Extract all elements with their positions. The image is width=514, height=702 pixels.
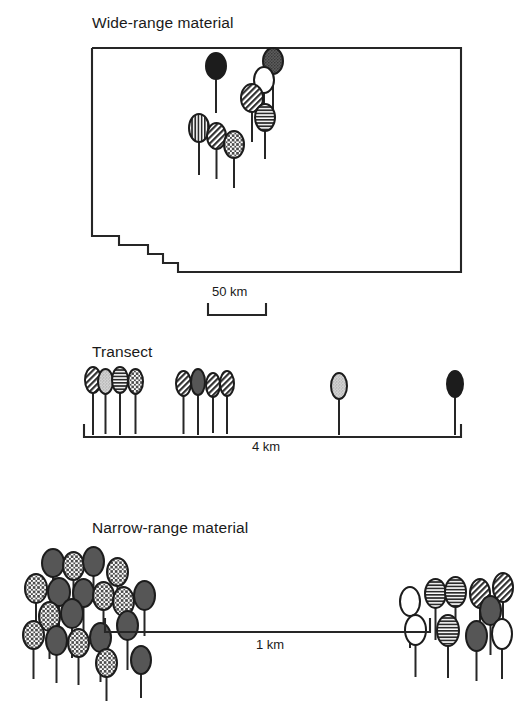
symbol-head-crosshatch (23, 621, 44, 649)
symbol-head-gray_solid (117, 611, 138, 640)
sample-symbol-horizontal_lines (436, 614, 460, 679)
symbol-head-gray_solid (61, 599, 83, 628)
symbol-head-diagonal_lines (220, 371, 234, 396)
sample-symbol-crosshatch (67, 628, 90, 686)
symbol-head-diagonal_lines (206, 373, 220, 397)
sample-symbol-solid_black (446, 370, 464, 436)
symbol-head-horizontal_lines (445, 577, 466, 607)
sample-symbol-crosshatch (95, 648, 118, 702)
symbol-head-gray_solid (131, 646, 151, 674)
symbol-head-white_open (405, 615, 426, 645)
sample-symbol-white_open (491, 618, 513, 680)
sample-symbol-white_open (404, 614, 427, 678)
sample-symbol-light_stipple (330, 372, 348, 436)
panel-title-narrow-range: Narrow-range material (92, 519, 248, 537)
symbol-head-crosshatch (25, 574, 47, 603)
sample-symbol-crosshatch (127, 368, 144, 435)
sample-symbol-diagonal_lines (219, 370, 235, 435)
symbol-head-white_open (400, 587, 420, 616)
sample-symbol-gray_solid (190, 368, 206, 436)
symbol-head-gray_solid (466, 621, 487, 651)
symbol-head-crosshatch (63, 552, 84, 580)
symbol-head-gray_solid (46, 626, 67, 655)
symbol-head-solid_black (447, 371, 463, 397)
sample-symbol-crosshatch (22, 620, 45, 680)
sample-symbol-gray_solid (45, 625, 68, 684)
sample-symbol-gray_solid (130, 645, 152, 699)
symbol-head-white_open (492, 619, 512, 649)
symbol-head-gray_solid (83, 547, 104, 576)
sample-symbol-gray_solid (465, 620, 488, 682)
scalebar-label-1km: 1 km (256, 637, 284, 652)
symbol-head-horizontal_lines (425, 579, 446, 608)
symbol-head-crosshatch (68, 629, 89, 657)
symbol-head-gray_solid (134, 581, 155, 610)
scalebar-label-4km: 4 km (252, 439, 280, 454)
symbol-head-diagonal_lines (176, 371, 191, 396)
symbol-head-gray_solid (191, 369, 205, 395)
symbol-head-horizontal_lines (437, 615, 459, 646)
symbol-head-crosshatch (93, 582, 114, 610)
symbol-head-light_stipple (331, 373, 347, 399)
symbol-head-crosshatch (96, 649, 117, 677)
symbol-head-crosshatch (128, 369, 143, 394)
symbol-head-horizontal_lines (112, 367, 128, 393)
